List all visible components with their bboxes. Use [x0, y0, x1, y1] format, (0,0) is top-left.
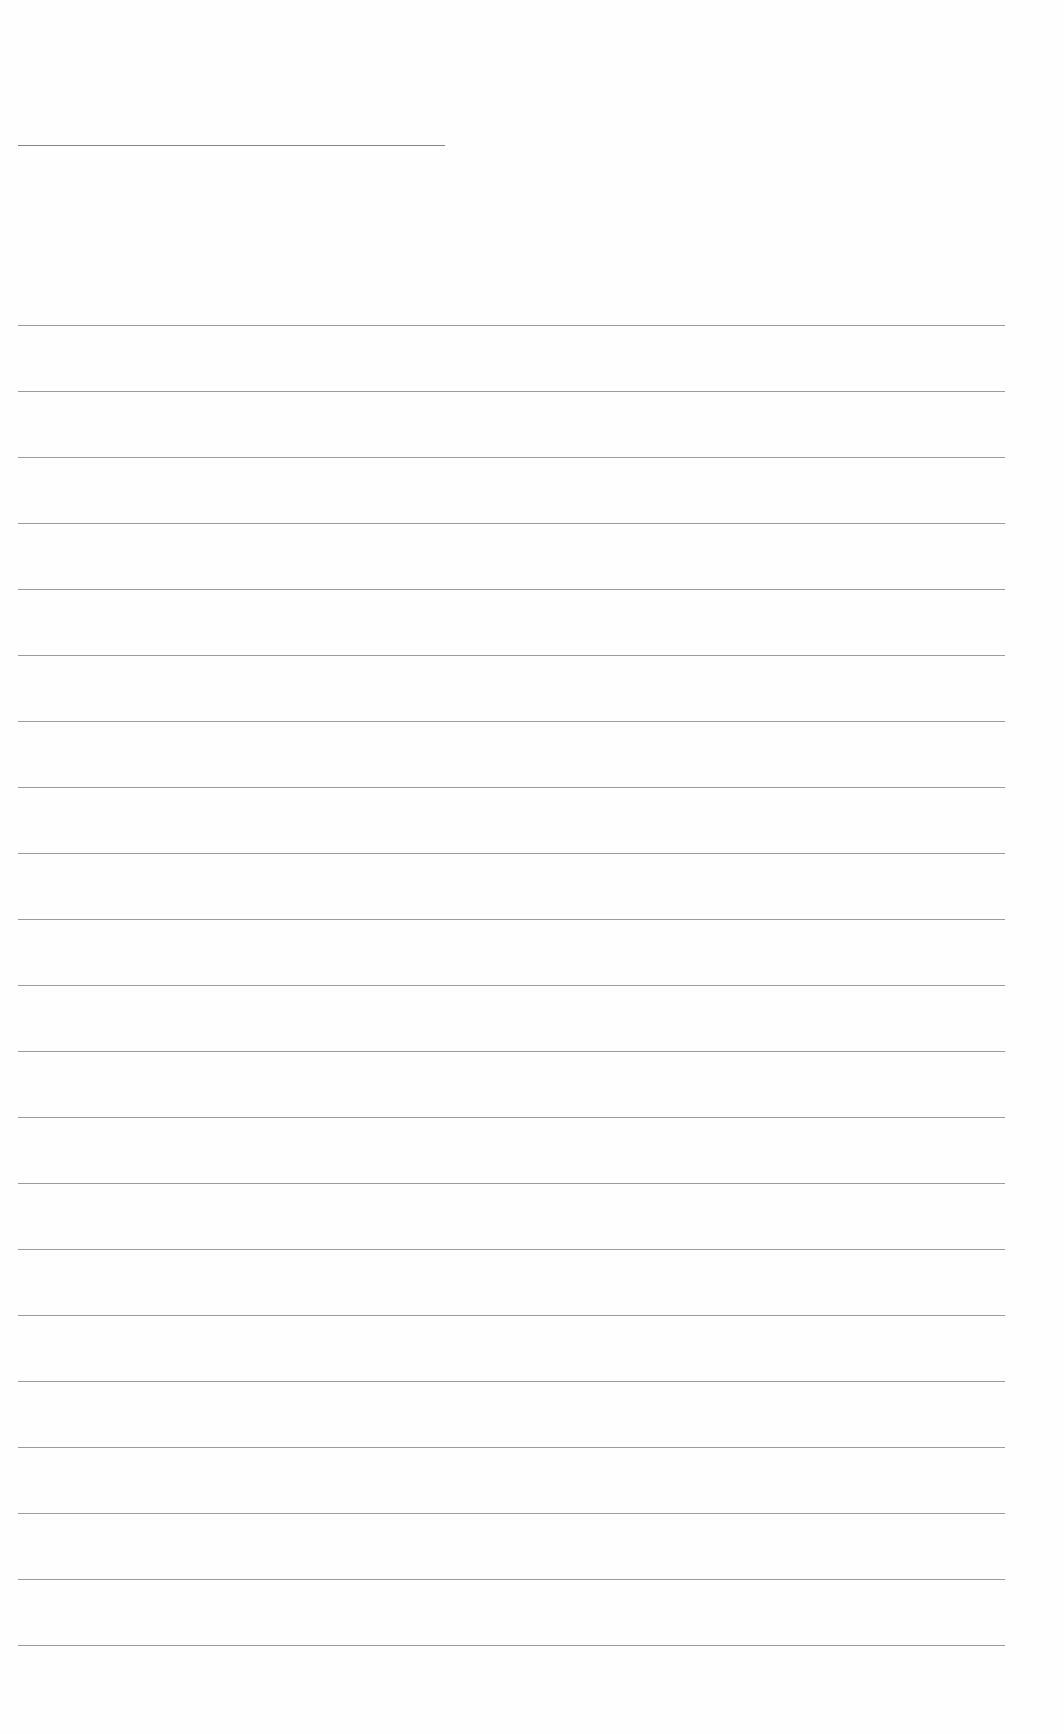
ruled-line	[18, 457, 1005, 458]
ruled-line	[18, 523, 1005, 524]
ruled-line	[18, 1381, 1005, 1382]
ruled-line	[18, 1249, 1005, 1250]
ruled-line	[18, 589, 1005, 590]
ruled-line	[18, 391, 1005, 392]
ruled-line	[18, 1315, 1005, 1316]
ruled-line	[18, 655, 1005, 656]
ruled-line	[18, 919, 1005, 920]
lined-paper-page	[0, 0, 1064, 1734]
ruled-line	[18, 1579, 1005, 1580]
ruled-line	[18, 325, 1005, 326]
ruled-line	[18, 1117, 1005, 1118]
ruled-line	[18, 787, 1005, 788]
ruled-line	[18, 1645, 1005, 1646]
header-rule	[18, 145, 445, 146]
ruled-line	[18, 1447, 1005, 1448]
ruled-line	[18, 721, 1005, 722]
ruled-line	[18, 853, 1005, 854]
ruled-line	[18, 985, 1005, 986]
ruled-line	[18, 1513, 1005, 1514]
ruled-line	[18, 1183, 1005, 1184]
ruled-line	[18, 1051, 1005, 1052]
